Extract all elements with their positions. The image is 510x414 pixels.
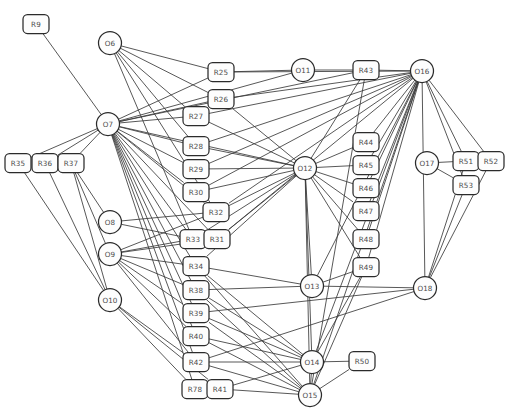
- graph-node-o6[interactable]: O6: [99, 32, 122, 55]
- graph-node-r51[interactable]: R51: [453, 152, 479, 171]
- node-label: R45: [359, 161, 373, 170]
- graph-edge: [438, 162, 453, 163]
- graph-edge: [429, 195, 462, 278]
- graph-node-o7[interactable]: O7: [97, 113, 120, 136]
- node-label: O7: [103, 120, 113, 129]
- graph-node-r43[interactable]: R43: [353, 61, 379, 80]
- graph-edge: [229, 78, 413, 204]
- graph-node-o13[interactable]: O13: [301, 275, 324, 298]
- graph-node-o18[interactable]: O18: [414, 277, 437, 300]
- graph-node-r26[interactable]: R26: [208, 90, 234, 109]
- graph-edge: [229, 173, 295, 205]
- graph-node-r40[interactable]: R40: [183, 327, 209, 346]
- graph-edge: [316, 148, 353, 164]
- node-label: R34: [189, 262, 204, 271]
- graph-edge: [324, 286, 414, 288]
- graph-node-o16[interactable]: O16: [411, 60, 434, 83]
- graph-node-r32[interactable]: R32: [203, 203, 229, 222]
- graph-edge: [209, 339, 301, 360]
- node-layer: R9O6R25O11R43O16R26O7R27R28R44O17R51R52R…: [5, 15, 504, 407]
- node-label: R35: [11, 159, 25, 168]
- node-label: R43: [359, 66, 373, 75]
- graph-edge: [58, 130, 98, 155]
- graph-edge: [119, 50, 185, 106]
- graph-node-o14[interactable]: O14: [301, 351, 324, 374]
- graph-edge: [121, 241, 180, 252]
- graph-node-r9[interactable]: R9: [23, 15, 49, 34]
- node-label: R27: [189, 112, 203, 121]
- graph-node-r28[interactable]: R28: [183, 137, 209, 156]
- graph-node-r33[interactable]: R33: [180, 230, 206, 249]
- graph-node-r46[interactable]: R46: [353, 179, 379, 198]
- graph-node-o11[interactable]: O11: [292, 59, 315, 82]
- graph-node-o9[interactable]: O9: [99, 243, 122, 266]
- node-label: R46: [359, 184, 374, 193]
- graph-edge: [120, 48, 208, 92]
- node-label: R47: [359, 207, 373, 216]
- node-label: R41: [213, 385, 227, 394]
- graph-node-r30[interactable]: R30: [183, 183, 209, 202]
- node-label: R26: [214, 95, 229, 104]
- graph-edge: [121, 213, 203, 221]
- node-label: R49: [359, 263, 374, 272]
- graph-edge: [204, 276, 302, 387]
- node-label: O8: [105, 218, 116, 227]
- graph-node-r34[interactable]: R34: [183, 257, 209, 276]
- graph-edge: [119, 307, 183, 353]
- graph-node-r36[interactable]: R36: [32, 154, 58, 173]
- graph-node-r78[interactable]: R78: [182, 380, 208, 399]
- node-label: O6: [105, 39, 116, 48]
- graph-edge: [233, 390, 299, 394]
- graph-node-r50[interactable]: R50: [349, 352, 375, 371]
- graph-node-r44[interactable]: R44: [353, 133, 379, 152]
- node-label: O16: [414, 67, 429, 76]
- node-label: R44: [359, 138, 374, 147]
- graph-node-r37[interactable]: R37: [58, 154, 84, 173]
- graph-node-r41[interactable]: R41: [207, 380, 233, 399]
- node-label: R30: [189, 188, 204, 197]
- graph-node-r47[interactable]: R47: [353, 202, 379, 221]
- node-label: R48: [359, 235, 374, 244]
- graph-node-o10[interactable]: O10: [99, 289, 122, 312]
- graph-node-r38[interactable]: R38: [183, 281, 209, 300]
- graph-node-r39[interactable]: R39: [183, 304, 209, 323]
- graph-node-r42[interactable]: R42: [183, 353, 209, 372]
- graph-edge: [379, 70, 411, 71]
- graph-edge: [234, 73, 411, 98]
- graph-edge: [77, 173, 103, 213]
- graph-node-r35[interactable]: R35: [5, 154, 31, 173]
- graph-node-r27[interactable]: R27: [183, 107, 209, 126]
- node-label: R37: [64, 159, 78, 168]
- graph-node-o8[interactable]: O8: [99, 211, 122, 234]
- graph-node-r48[interactable]: R48: [353, 230, 379, 249]
- node-label: R29: [189, 165, 204, 174]
- graph-node-r53[interactable]: R53: [453, 176, 479, 195]
- graph-node-r25[interactable]: R25: [208, 63, 234, 82]
- graph-edge: [311, 373, 312, 383]
- node-label: O14: [304, 358, 319, 367]
- graph-edge: [320, 370, 349, 389]
- graph-node-o17[interactable]: O17: [416, 152, 439, 175]
- graph-node-r49[interactable]: R49: [353, 258, 379, 277]
- node-label: R36: [38, 159, 53, 168]
- node-label: R31: [210, 235, 224, 244]
- graph-edge: [209, 318, 301, 357]
- graph-edge: [112, 135, 192, 380]
- graph-node-o12[interactable]: O12: [294, 157, 317, 180]
- graph-edge: [229, 78, 414, 229]
- graph-node-r31[interactable]: R31: [204, 230, 230, 249]
- graph-edge: [24, 173, 103, 291]
- node-label: O11: [295, 66, 310, 75]
- graph-edge: [427, 81, 461, 151]
- graph-edge: [209, 168, 294, 169]
- node-label: R52: [484, 157, 498, 166]
- node-label: R39: [189, 309, 204, 318]
- node-label: O18: [417, 284, 432, 293]
- graph-node-r52[interactable]: R52: [478, 152, 504, 171]
- node-label: R25: [214, 68, 228, 77]
- graph-edge: [209, 75, 411, 142]
- node-label: R42: [189, 358, 203, 367]
- node-label: R32: [209, 208, 223, 217]
- graph-node-r29[interactable]: R29: [183, 160, 209, 179]
- graph-node-r45[interactable]: R45: [353, 156, 379, 175]
